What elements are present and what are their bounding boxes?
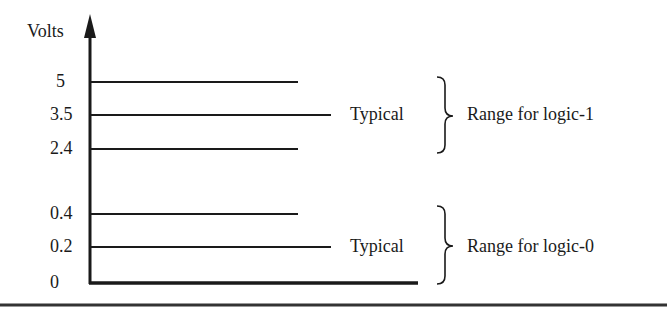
typical-label-logic-1: Typical	[350, 105, 404, 123]
tick-label-0.2: 0.2	[50, 237, 73, 255]
tick-label-0.4: 0.4	[50, 204, 73, 222]
range-label-logic-1: Range for logic-1	[467, 105, 594, 123]
tick-label-5: 5	[20, 72, 66, 90]
tick-label-0: 0	[50, 273, 59, 291]
arrow-up-icon	[84, 14, 96, 38]
brace-logic-0-icon	[437, 206, 453, 284]
typical-label-logic-0: Typical	[350, 237, 404, 255]
voltage-diagram-graphic	[0, 0, 667, 310]
range-label-logic-0: Range for logic-0	[467, 237, 594, 255]
tick-label-2.4: 2.4	[50, 139, 73, 157]
axis-label-volts: Volts	[27, 22, 64, 40]
tick-label-3.5: 3.5	[50, 105, 73, 123]
brace-logic-1-icon	[437, 77, 453, 153]
